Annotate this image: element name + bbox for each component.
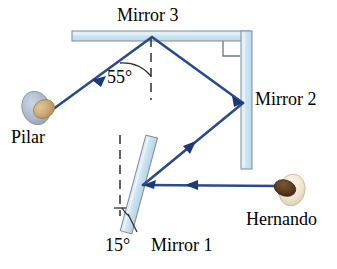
mirror2-bar (241, 31, 252, 169)
pilar-head (17, 88, 58, 129)
ray-mirror1-to-mirror2 (143, 103, 243, 185)
label-pilar: Pilar (11, 128, 45, 146)
label-mirror3: Mirror 3 (117, 6, 179, 24)
reflection-diagram: Mirror 3 Mirror 2 Mirror 1 55° 15° Pilar… (0, 0, 337, 269)
label-hernando: Hernando (246, 210, 317, 228)
ray-mirror2-to-mirror3 (152, 37, 243, 107)
mirror3-bar (72, 31, 250, 41)
label-angle-15: 15° (105, 236, 130, 254)
ray-hernando-to-mirror1 (143, 180, 281, 190)
label-angle-55: 55° (107, 68, 132, 86)
label-mirror2: Mirror 2 (255, 90, 317, 108)
ray-mirror3-to-pilar (52, 37, 152, 110)
label-mirror1: Mirror 1 (151, 236, 213, 254)
right-angle-marker (223, 41, 240, 56)
hernando-head (272, 172, 308, 209)
